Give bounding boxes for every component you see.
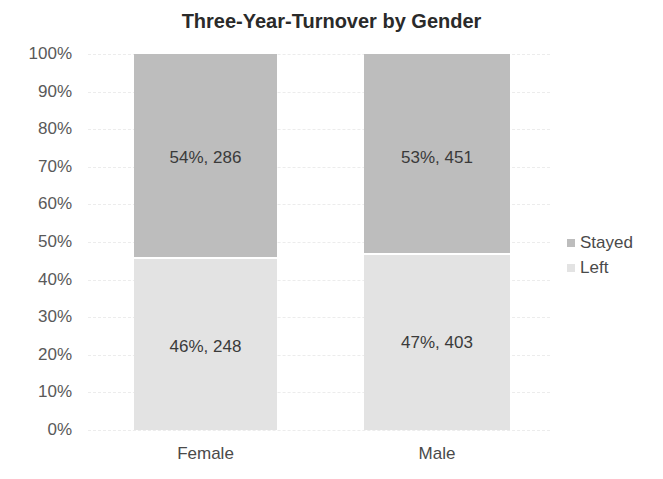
y-tick-label: 100% (0, 44, 72, 64)
bar-female: 54%, 286 46%, 248 (134, 54, 277, 430)
x-tick-male: Male (364, 444, 510, 464)
y-tick-label: 80% (0, 119, 72, 139)
y-tick-label: 70% (0, 157, 72, 177)
y-tick-label: 50% (0, 232, 72, 252)
x-tick-female: Female (134, 444, 277, 464)
legend-item-stayed: Stayed (567, 230, 633, 255)
bar-segment-stayed: 53%, 451 (364, 54, 510, 253)
y-tick-label: 0% (0, 420, 72, 440)
data-label: 46%, 248 (134, 337, 277, 357)
y-tick-label: 10% (0, 382, 72, 402)
chart-title: Three-Year-Turnover by Gender (0, 10, 663, 33)
gridline (88, 430, 550, 431)
legend-swatch-left (567, 264, 575, 272)
legend-label: Stayed (580, 233, 633, 253)
legend-swatch-stayed (567, 239, 575, 247)
legend-item-left: Left (567, 255, 633, 280)
bar-segment-left: 46%, 248 (134, 257, 277, 430)
y-tick-label: 90% (0, 82, 72, 102)
data-label: 47%, 403 (364, 333, 510, 353)
y-tick-label: 20% (0, 345, 72, 365)
y-tick-label: 60% (0, 194, 72, 214)
legend: Stayed Left (567, 230, 633, 280)
data-label: 54%, 286 (134, 148, 277, 168)
bar-male: 53%, 451 47%, 403 (364, 54, 510, 430)
bar-segment-stayed: 54%, 286 (134, 54, 277, 257)
data-label: 53%, 451 (364, 148, 510, 168)
y-tick-label: 30% (0, 307, 72, 327)
bar-segment-left: 47%, 403 (364, 253, 510, 430)
y-tick-label: 40% (0, 270, 72, 290)
legend-label: Left (580, 258, 608, 278)
